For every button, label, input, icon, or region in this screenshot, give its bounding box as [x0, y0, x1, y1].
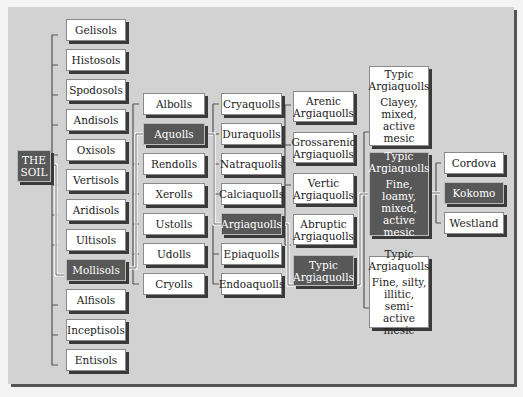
great-group-label: Epiaquolls: [224, 248, 280, 260]
family-description-line: Fine, loamy,: [370, 178, 428, 202]
family-description: Fine, loamy,mixed,activemesic: [370, 178, 428, 238]
order-box: Entisols: [66, 349, 126, 371]
order-box: Spodosols: [66, 79, 126, 101]
root-label-line2: SOIL: [21, 166, 48, 178]
subgroup-line1: Vertic: [308, 177, 339, 189]
great-group-label: Cryaquolls: [223, 98, 280, 110]
order-box: Oxisols: [66, 139, 126, 161]
order-box: Vertisols: [66, 169, 126, 191]
order-label: Ultisols: [76, 234, 116, 246]
series-label: Westland: [450, 217, 499, 229]
family-title-line2: Argiaquolls: [369, 162, 430, 174]
suborder-label: Albolls: [156, 98, 192, 110]
subgroup-line1: Arenic: [306, 95, 341, 107]
series-label: Cordova: [452, 157, 497, 169]
family-title-line1: Typic: [385, 68, 414, 80]
series-label: Kokomo: [453, 187, 496, 199]
subgroup-line2: Argiaquolls: [293, 189, 354, 201]
family-description-line: mesic: [370, 324, 428, 336]
subgroup-line2: Argiaquolls: [293, 230, 354, 242]
great-group-box: Natraquolls: [221, 153, 282, 175]
order-label: Gelisols: [75, 24, 117, 36]
family-box: TypicArgiaquollsFine, silty,illitic,semi…: [369, 256, 429, 328]
suborder-label: Cryolls: [155, 278, 192, 290]
family-title-line2: Argiaquolls: [369, 260, 430, 272]
order-label: Aridisols: [73, 204, 120, 216]
family-description-line: mixed,: [370, 202, 428, 214]
family-description-line: Clayey,: [380, 96, 418, 108]
great-group-label: Duraquolls: [222, 128, 280, 140]
suborder-label: Udolls: [157, 248, 191, 260]
suborder-box: Ustolls: [143, 213, 205, 235]
order-box: Aridisols: [66, 199, 126, 221]
order-label: Alfisols: [77, 294, 115, 306]
order-box: Ultisols: [66, 229, 126, 251]
subgroup-box: AbrupticArgiaquolls: [293, 214, 354, 245]
family-description: Fine, silty,illitic,semi-activemesic: [370, 276, 428, 336]
great-group-box: Endoaquolls: [221, 273, 282, 295]
order-label: Spodosols: [69, 84, 123, 96]
great-group-label: Endoaquolls: [219, 278, 285, 290]
family-description-line: active: [370, 214, 428, 226]
subgroup-line1: Abruptic: [300, 218, 346, 230]
series-box: Kokomo: [444, 182, 504, 204]
order-label: Oxisols: [77, 144, 115, 156]
order-box: Inceptisols: [66, 319, 126, 341]
order-box: Histosols: [66, 49, 126, 71]
order-label: Vertisols: [73, 174, 119, 186]
series-box: Cordova: [444, 152, 504, 174]
order-box: Gelisols: [66, 19, 126, 41]
subgroup-line1: Typic: [309, 259, 338, 271]
order-box: Andisols: [66, 109, 126, 131]
suborder-label: Rendolls: [151, 158, 197, 170]
great-group-box: Argiaquolls: [221, 213, 282, 235]
root-label-line1: THE: [22, 154, 46, 166]
order-box: Alfisols: [66, 289, 126, 311]
family-title-line2: Argiaquolls: [369, 80, 430, 92]
suborder-box: Udolls: [143, 243, 205, 265]
subgroup-line1: Grossarenic: [292, 136, 356, 148]
suborder-box: Xerolls: [143, 183, 205, 205]
subgroup-box: GrossarenicArgiaquolls: [293, 132, 354, 163]
great-group-box: Cryaquolls: [221, 93, 282, 115]
order-label: Entisols: [75, 354, 117, 366]
great-group-label: Argiaquolls: [221, 218, 282, 230]
order-label: Inceptisols: [67, 324, 125, 336]
subgroup-line2: Argiaquolls: [293, 148, 354, 160]
family-description-line: mesic: [370, 226, 428, 238]
great-group-label: Calciaquolls: [219, 188, 284, 200]
family-description-line: active: [380, 120, 418, 132]
subgroup-box: ArenicArgiaquolls: [293, 91, 354, 122]
subgroup-line2: Argiaquolls: [293, 271, 354, 283]
order-label: Andisols: [74, 114, 119, 126]
subgroup-box: VerticArgiaquolls: [293, 173, 354, 204]
great-group-label: Natraquolls: [220, 158, 283, 170]
great-group-box: Epiaquolls: [221, 243, 282, 265]
suborder-label: Xerolls: [155, 188, 192, 200]
family-box: TypicArgiaquollsClayey,mixed,activemesic: [369, 66, 429, 146]
suborder-box: Albolls: [143, 93, 205, 115]
family-description: Clayey,mixed,activemesic: [380, 96, 418, 144]
family-description-line: mesic: [380, 132, 418, 144]
subgroup-line2: Argiaquolls: [293, 107, 354, 119]
suborder-box: Rendolls: [143, 153, 205, 175]
great-group-box: Calciaquolls: [221, 183, 282, 205]
suborder-label: Aquolls: [154, 128, 194, 140]
family-box: TypicArgiaquollsFine, loamy,mixed,active…: [369, 152, 429, 236]
suborder-label: Ustolls: [156, 218, 193, 230]
order-box: Mollisols: [66, 259, 126, 281]
family-description-line: illitic,: [370, 288, 428, 300]
subgroup-box: TypicArgiaquolls: [293, 255, 354, 286]
suborder-box: Cryolls: [143, 273, 205, 295]
root-box-the-soil: THE SOIL: [17, 150, 51, 182]
family-title-line1: Typic: [385, 150, 414, 162]
family-title-line1: Typic: [385, 248, 414, 260]
suborder-box: Aquolls: [143, 123, 205, 145]
family-description-line: mixed,: [380, 108, 418, 120]
order-label: Mollisols: [72, 264, 120, 276]
family-description-line: Fine, silty,: [370, 276, 428, 288]
order-label: Histosols: [72, 54, 121, 66]
great-group-box: Duraquolls: [221, 123, 282, 145]
family-description-line: semi-active: [370, 300, 428, 324]
series-box: Westland: [444, 212, 504, 234]
